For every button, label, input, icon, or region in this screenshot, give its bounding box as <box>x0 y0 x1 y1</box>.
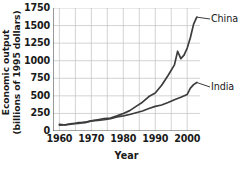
y-tick-label-1000: 1000 <box>20 56 50 66</box>
y-tick-label-750: 750 <box>20 73 50 83</box>
y-tick-label-1250: 1250 <box>20 38 50 48</box>
series-label-india: India <box>211 82 234 92</box>
plot-canvas <box>53 8 200 131</box>
series-label-china: China <box>211 14 238 24</box>
x-axis-tick-labels: 19601970198019902000 <box>53 133 233 147</box>
y-tick-label-250: 250 <box>20 109 50 119</box>
y-tick-label-500: 500 <box>20 91 50 101</box>
y-axis-title-line1: Economic output <box>1 10 12 134</box>
y-tick-label-1500: 1500 <box>20 21 50 31</box>
x-tick-label-2000: 2000 <box>167 133 207 145</box>
y-axis-title: Economic output (billions of 1995 dollar… <box>0 0 22 145</box>
series-line-india <box>59 83 196 126</box>
series-line-china <box>59 17 196 125</box>
y-tick-label-1750: 1750 <box>20 3 50 13</box>
economic-output-line-chart: Economic output (billions of 1995 dollar… <box>0 0 240 175</box>
plot-area <box>53 8 200 131</box>
y-axis-tick-labels: 02505007501000125015001750 <box>20 8 50 131</box>
x-axis-title: Year <box>53 150 200 161</box>
series-lines <box>59 17 196 125</box>
